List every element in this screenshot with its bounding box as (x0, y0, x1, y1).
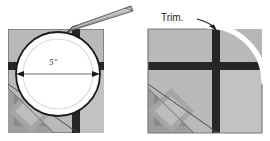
sashing-horizontal (148, 62, 262, 70)
trim-corner-panel: Trim. (135, 0, 270, 141)
pencil-icon (67, 6, 133, 32)
trim-label: Trim. (161, 12, 183, 23)
pinwheel-patch-right (148, 88, 194, 133)
trace-circle-illustration (0, 0, 135, 141)
trace-circle-panel: 5" (0, 0, 135, 141)
sashing-vertical (212, 29, 220, 133)
figure-container: 5" (0, 0, 270, 141)
quilt-block-right (148, 29, 262, 133)
diameter-label: 5" (49, 57, 58, 67)
trim-corner-illustration (135, 0, 270, 141)
